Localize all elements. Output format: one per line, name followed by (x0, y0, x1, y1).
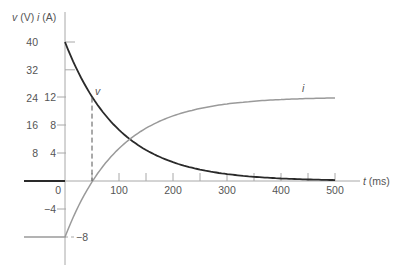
labels: 0100200300400500816243240−8−44812v (V) i… (12, 11, 390, 243)
ticks (57, 42, 335, 237)
x-tick-label: 0 (55, 184, 61, 196)
v-tick-label: 16 (26, 119, 38, 131)
x-tick-label: 300 (218, 184, 236, 196)
v-tick-label: 32 (26, 64, 38, 76)
v-tick-label: 24 (26, 92, 38, 104)
i-tick-label: 4 (50, 147, 56, 159)
i-tick-label: −4 (44, 203, 56, 215)
i-tick-label: 12 (44, 91, 56, 103)
x-tick-label: 200 (164, 184, 182, 196)
i-curve-label: i (302, 82, 305, 94)
i-tick-label: −8 (76, 231, 88, 243)
y-axis-title: v (V) i (A) (12, 11, 56, 23)
axes (24, 12, 360, 265)
v-tick-label: 40 (26, 36, 38, 48)
i-curve (24, 98, 335, 237)
x-tick-label: 400 (272, 184, 290, 196)
x-tick-label: 100 (110, 184, 128, 196)
v-curve-label: v (95, 85, 101, 97)
x-axis-title: t (ms) (363, 175, 390, 187)
v-tick-label: 8 (32, 147, 38, 159)
series (24, 42, 335, 237)
x-tick-label: 500 (326, 184, 344, 196)
chart: 0100200300400500816243240−8−44812v (V) i… (0, 0, 408, 279)
i-tick-label: 8 (50, 119, 56, 131)
v-curve (24, 42, 335, 181)
